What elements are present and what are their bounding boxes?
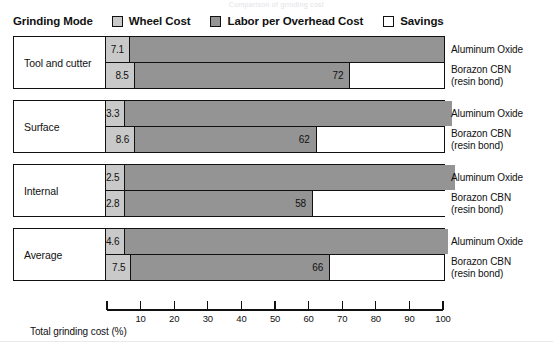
segment-value-labor-overhead-cost: 58: [295, 198, 312, 209]
x-axis-tick: [375, 301, 376, 310]
x-axis-tick: [106, 301, 107, 310]
group-mode-label-tool-and-cutter: Tool and cutter: [14, 37, 106, 88]
segment-labor-overhead-cost: 58: [125, 191, 312, 217]
segment-labor-overhead-cost: [125, 229, 447, 254]
chart-group-tool-and-cutter: Tool and cutter 7.1 8.5 72: [13, 36, 445, 89]
chart-legend: Grinding Mode Wheel Cost Labor per Overh…: [13, 11, 543, 31]
group-bars: 3.3 8.6 62: [106, 101, 444, 152]
legend-axis-title: Grinding Mode: [13, 15, 93, 27]
group-bars: 4.6 7.5 66: [106, 229, 444, 280]
legend-item-savings: Savings: [383, 15, 443, 27]
x-axis-tick: [274, 301, 275, 310]
x-axis-tick-label: 50: [270, 313, 280, 324]
segment-labor-overhead-cost: 72: [135, 63, 350, 89]
x-axis-tick: [241, 301, 242, 310]
group-bars: 2.5 2.8 58: [106, 165, 444, 216]
material-labels-internal: Aluminum Oxide Borazon CBN (resin bond): [451, 164, 553, 217]
x-axis-tick-label: 100: [435, 313, 450, 324]
segment-savings: [349, 63, 444, 89]
segment-value-wheel-cost: 4.6: [106, 236, 124, 247]
segment-labor-overhead-cost: 62: [135, 127, 315, 153]
segment-labor-overhead-cost: [125, 165, 455, 190]
material-label-text-line2: (resin bond): [451, 76, 553, 88]
savings-swatch-icon: [383, 16, 394, 27]
segment-value-wheel-cost: 3.3: [106, 108, 124, 119]
segment-value-wheel-cost: 7.5: [112, 262, 130, 273]
material-label-borazon-cbn: Borazon CBN (resin bond): [451, 63, 553, 90]
segment-wheel-cost: 7.1: [106, 37, 130, 62]
material-label-text-line2: (resin bond): [451, 204, 553, 216]
legend-label-labor-overhead-cost: Labor per Overhead Cost: [227, 15, 363, 27]
x-axis: 102030405060708090100 Total grinding cos…: [0, 296, 553, 346]
bar-row-borazon-cbn: 2.8 58: [106, 191, 444, 217]
x-axis-tick: [140, 301, 141, 310]
bar-row-borazon-cbn: 8.5 72: [106, 63, 444, 89]
material-labels-tool-and-cutter: Aluminum Oxide Borazon CBN (resin bond): [451, 36, 553, 89]
material-labels-surface: Aluminum Oxide Borazon CBN (resin bond): [451, 100, 553, 153]
x-axis-tick: [409, 301, 410, 310]
segment-wheel-cost: 2.5: [106, 165, 125, 190]
legend-label-wheel-cost: Wheel Cost: [129, 15, 191, 27]
bar-row-aluminum-oxide: 4.6: [106, 229, 444, 255]
material-labels-average: Aluminum Oxide Borazon CBN (resin bond): [451, 228, 553, 281]
material-label-text-line1: Borazon CBN: [451, 256, 553, 268]
segment-value-wheel-cost: 2.5: [106, 172, 124, 183]
x-axis-tick-label: 70: [337, 313, 347, 324]
segment-value-labor-overhead-cost: 72: [333, 70, 350, 81]
group-mode-label-average: Average: [14, 229, 106, 280]
segment-value-wheel-cost: 8.5: [115, 70, 133, 81]
group-bars: 7.1 8.5 72: [106, 37, 444, 88]
bar-row-borazon-cbn: 8.6 62: [106, 127, 444, 153]
segment-value-labor-overhead-cost: 66: [312, 262, 329, 273]
segment-labor-overhead-cost: [125, 101, 452, 126]
segment-wheel-cost: 8.5: [106, 63, 135, 89]
legend-item-labor-overhead-cost: Labor per Overhead Cost: [210, 15, 363, 27]
segment-wheel-cost: 7.5: [106, 255, 131, 281]
segment-savings: [329, 255, 444, 281]
x-axis-tick: [207, 301, 208, 310]
segment-labor-overhead-cost: 66: [131, 255, 329, 281]
segment-savings: [312, 191, 454, 217]
material-label-text: Aluminum Oxide: [451, 44, 553, 56]
segment-wheel-cost: 3.3: [106, 101, 125, 126]
legend-label-savings: Savings: [400, 15, 443, 27]
segment-wheel-cost: 2.8: [106, 191, 125, 217]
bar-row-aluminum-oxide: 7.1: [106, 37, 444, 63]
x-axis-tick-label: 10: [136, 313, 146, 324]
group-mode-label-internal: Internal: [14, 165, 106, 216]
segment-value-wheel-cost: 8.6: [116, 134, 134, 145]
chart-group-average: Average 4.6 7.5 66: [13, 228, 445, 281]
bottom-divider: [0, 341, 553, 342]
x-axis-tick: [174, 301, 175, 310]
bar-row-borazon-cbn: 7.5 66: [106, 255, 444, 281]
x-axis-tick-label: 90: [404, 313, 414, 324]
segment-value-wheel-cost: 2.8: [106, 198, 124, 209]
material-label-aluminum-oxide: Aluminum Oxide: [451, 228, 553, 255]
wheel-cost-swatch-icon: [112, 16, 123, 27]
material-label-text-line2: (resin bond): [451, 268, 553, 280]
material-label-borazon-cbn: Borazon CBN (resin bond): [451, 191, 553, 218]
x-axis-tick-label: 20: [169, 313, 179, 324]
material-label-aluminum-oxide: Aluminum Oxide: [451, 36, 553, 63]
x-axis-tick: [342, 301, 343, 310]
segment-wheel-cost: 4.6: [106, 229, 125, 254]
segment-wheel-cost: 8.6: [106, 127, 135, 153]
x-axis-tick-label: 60: [304, 313, 314, 324]
clipped-top-caption: Comparison of grinding cost: [0, 0, 553, 9]
material-label-borazon-cbn: Borazon CBN (resin bond): [451, 127, 553, 154]
x-axis-tick: [442, 301, 443, 310]
segment-value-labor-overhead-cost: 62: [299, 134, 316, 145]
material-label-text-line2: (resin bond): [451, 140, 553, 152]
group-mode-label-surface: Surface: [14, 101, 106, 152]
x-axis-tick-label: 30: [203, 313, 213, 324]
x-axis-tick: [308, 301, 309, 310]
material-label-text-line1: Borazon CBN: [451, 64, 553, 76]
bar-row-aluminum-oxide: 3.3: [106, 101, 444, 127]
chart-group-internal: Internal 2.5 2.8 58: [13, 164, 445, 217]
segment-savings: [316, 127, 444, 153]
material-label-text: Aluminum Oxide: [451, 108, 553, 120]
x-axis-tick-label: 80: [371, 313, 381, 324]
x-axis-tick-label: 40: [236, 313, 246, 324]
bar-row-aluminum-oxide: 2.5: [106, 165, 444, 191]
material-label-borazon-cbn: Borazon CBN (resin bond): [451, 255, 553, 282]
